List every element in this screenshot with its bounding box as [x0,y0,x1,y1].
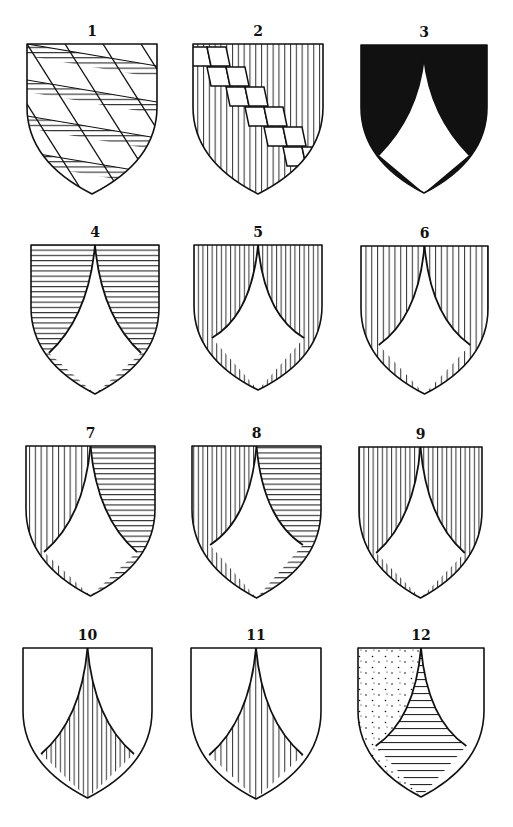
shield-number-label: 11 [246,628,265,642]
shield-3 [361,45,487,193]
shield-5 [194,245,322,390]
shield-7 [26,446,155,596]
shields-canvas [0,0,513,827]
shield-number-label: 7 [86,426,96,440]
shield-number-label: 1 [87,24,97,38]
shield-number-label: 4 [90,225,100,239]
shield-10 [23,648,152,798]
shield-number-label: 12 [411,628,430,642]
shield-number-label: 10 [78,628,97,642]
shield-number-label: 9 [416,427,426,441]
shield-number-label: 6 [420,226,430,240]
shield-8 [192,446,321,598]
shield-number-label: 5 [253,225,263,239]
shield-number-label: 3 [419,25,429,39]
shield-4 [31,245,159,394]
shield-6 [361,246,488,394]
shield-9 [359,447,482,598]
shield-number-label: 8 [252,426,262,440]
shield-2 [188,44,325,194]
shield-12 [358,648,484,797]
shield-number-label: 2 [253,24,263,38]
shield-11 [191,648,321,799]
